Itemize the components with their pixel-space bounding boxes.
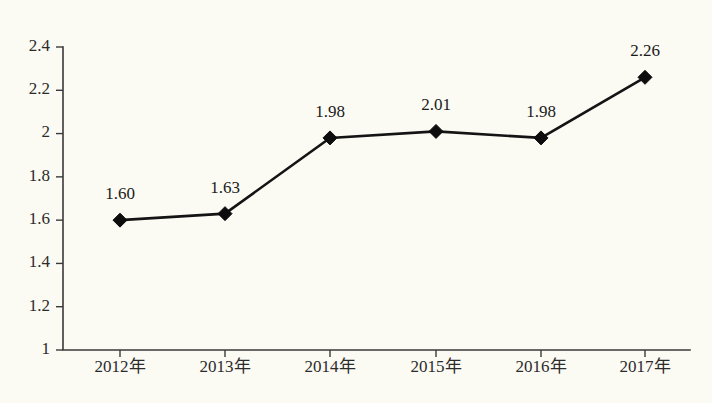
x-axis-tick-label: 2015年 bbox=[411, 357, 462, 376]
y-axis-tick-label: 2.4 bbox=[29, 36, 51, 55]
y-axis-tick-label: 1.6 bbox=[29, 209, 50, 228]
x-axis-tick-label: 2013年 bbox=[200, 357, 251, 376]
chart-canvas: 11.21.41.61.822.22.4 2012年2013年2014年2015… bbox=[0, 0, 712, 403]
y-axis-tick-label: 1 bbox=[42, 339, 51, 358]
data-point-value-label: 1.60 bbox=[105, 184, 135, 203]
y-axis-tick-label: 2 bbox=[42, 122, 51, 141]
y-axis-tick-label: 1.8 bbox=[29, 166, 50, 185]
data-point-value-label: 2.01 bbox=[421, 95, 451, 114]
line-chart-figure: 11.21.41.61.822.22.4 2012年2013年2014年2015… bbox=[0, 0, 712, 403]
x-axis-tick-label: 2014年 bbox=[305, 357, 356, 376]
data-point-value-label: 1.63 bbox=[210, 178, 240, 197]
y-axis-tick-label: 1.2 bbox=[29, 296, 50, 315]
data-point-value-label: 1.98 bbox=[526, 102, 556, 121]
x-axis-tick-label: 2016年 bbox=[516, 357, 567, 376]
data-point-value-label: 2.26 bbox=[630, 41, 660, 60]
data-point-value-label: 1.98 bbox=[315, 102, 345, 121]
y-axis-tick-label: 1.4 bbox=[29, 252, 51, 271]
x-axis-tick-label: 2012年 bbox=[95, 357, 146, 376]
y-axis-tick-label: 2.2 bbox=[29, 79, 50, 98]
x-axis-tick-label: 2017年 bbox=[620, 357, 671, 376]
